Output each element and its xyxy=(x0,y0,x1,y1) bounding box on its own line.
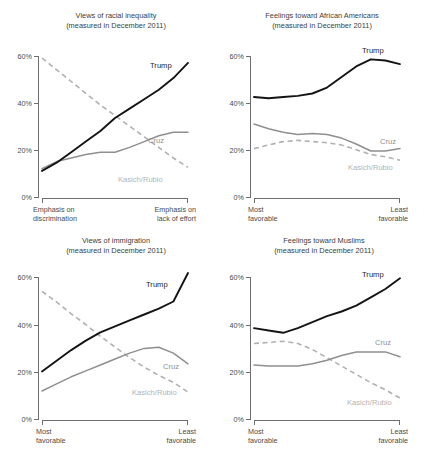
y-tick-40: 40% xyxy=(230,99,245,108)
chart-panel-feelings-muslims: Feelings toward Muslims (measured in Dec… xyxy=(212,225,424,450)
x-label-right-line2: favorable xyxy=(166,436,196,445)
y-tick-40: 40% xyxy=(18,321,33,330)
panel-subtitle: (measured in December 2011) xyxy=(274,246,374,255)
x-axis: Most favorable Least favorable xyxy=(248,421,408,446)
x-label-left-line2: favorable xyxy=(248,214,278,223)
series-line-kasich-rubio xyxy=(42,291,188,392)
series-line-cruz xyxy=(254,352,400,366)
y-axis: 60% 40% 20% 0% xyxy=(230,273,251,424)
x-label-right-line1: Emphasis on xyxy=(154,205,196,214)
y-axis: 60% 40% 20% 0% xyxy=(18,52,39,202)
x-label-right-line2: favorable xyxy=(378,214,408,223)
y-tick-20: 20% xyxy=(18,368,33,377)
series-line-trump xyxy=(254,59,400,98)
x-axis: Emphasis on discrimination Emphasis on l… xyxy=(33,199,196,224)
y-tick-0: 0% xyxy=(22,193,33,202)
panel-title: Feelings toward African Americans xyxy=(265,11,379,20)
y-tick-20: 20% xyxy=(18,146,33,155)
chart-panel-feelings-african-americans: Feelings toward African Americans (measu… xyxy=(212,0,424,225)
chart-svg-views-immigration: Views of immigration (measured in Decemb… xyxy=(0,225,212,450)
y-tick-40: 40% xyxy=(230,321,245,330)
chart-panel-views-immigration: Views of immigration (measured in Decemb… xyxy=(0,225,212,450)
y-axis: 60% 40% 20% 0% xyxy=(230,52,251,202)
small-multiples-figure: Views of racial inequality (measured in … xyxy=(0,0,424,450)
y-tick-20: 20% xyxy=(230,368,245,377)
y-tick-20: 20% xyxy=(230,146,245,155)
x-axis: Most favorable Least favorable xyxy=(248,199,408,224)
series-label-kasich-rubio: Kasich/Rubio xyxy=(348,163,393,172)
y-tick-0: 0% xyxy=(22,415,33,424)
series-label-cruz: Cruz xyxy=(163,362,179,371)
series-label-trump: Trump xyxy=(362,46,384,55)
series-line-kasich-rubio xyxy=(254,341,400,398)
panel-title: Views of immigration xyxy=(82,236,150,245)
x-label-left-line2: favorable xyxy=(248,436,278,445)
panel-subtitle: (measured in December 2011) xyxy=(272,21,372,30)
chart-svg-racial-inequality: Views of racial inequality (measured in … xyxy=(0,0,212,225)
chart-panel-racial-inequality: Views of racial inequality (measured in … xyxy=(0,0,212,225)
x-label-right-line2: favorable xyxy=(378,436,408,445)
x-label-left-line1: Most xyxy=(248,205,264,214)
series-label-cruz: Cruz xyxy=(380,137,396,146)
panel-title: Feelings toward Muslims xyxy=(283,236,365,245)
x-label-right-line1: Least xyxy=(178,427,196,436)
y-tick-60: 60% xyxy=(230,273,245,282)
y-tick-60: 60% xyxy=(18,52,33,61)
series-line-trump xyxy=(42,63,188,171)
series-line-kasich-rubio xyxy=(42,58,188,167)
x-label-right-line1: Least xyxy=(390,427,408,436)
y-tick-60: 60% xyxy=(230,52,245,61)
series-line-cruz xyxy=(42,132,188,168)
x-axis: Most favorable Least favorable xyxy=(36,421,196,446)
series-label-cruz: Cruz xyxy=(375,338,391,347)
series-label-kasich-rubio: Kasich/Rubio xyxy=(132,388,177,397)
series-line-cruz xyxy=(254,124,400,151)
x-label-left-line1: Most xyxy=(36,427,52,436)
panel-subtitle: (measured in December 2011) xyxy=(66,246,166,255)
x-label-left-line1: Emphasis on xyxy=(33,205,75,214)
series-label-cruz: Cruz xyxy=(148,136,164,145)
series-label-trump: Trump xyxy=(150,61,172,70)
y-tick-0: 0% xyxy=(234,193,245,202)
panel-title: Views of racial inequality xyxy=(76,11,157,20)
x-label-right-line1: Least xyxy=(390,205,408,214)
x-label-left-line2: discrimination xyxy=(33,214,77,223)
panel-subtitle: (measured in December 2011) xyxy=(66,21,166,30)
series-line-trump xyxy=(254,278,400,333)
chart-svg-feelings-muslims: Feelings toward Muslims (measured in Dec… xyxy=(212,225,424,450)
y-tick-0: 0% xyxy=(234,415,245,424)
y-axis: 60% 40% 20% 0% xyxy=(18,273,39,424)
x-label-left-line1: Most xyxy=(248,427,264,436)
chart-svg-feelings-african-americans: Feelings toward African Americans (measu… xyxy=(212,0,424,225)
series-label-kasich-rubio: Kasich/Rubio xyxy=(118,175,163,184)
x-label-left-line2: favorable xyxy=(36,436,66,445)
series-label-kasich-rubio: Kasich/Rubio xyxy=(347,398,392,407)
y-tick-40: 40% xyxy=(18,99,33,108)
series-label-trump: Trump xyxy=(362,270,384,279)
x-label-right-line2: lack of effort xyxy=(157,214,196,223)
series-label-trump: Trump xyxy=(146,280,168,289)
y-tick-60: 60% xyxy=(18,273,33,282)
